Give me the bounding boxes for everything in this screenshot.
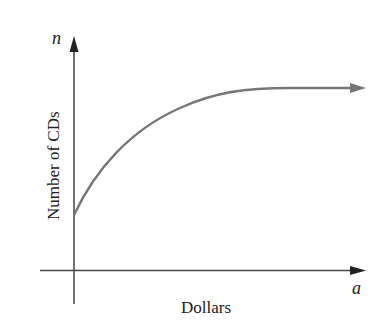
x-axis: [40, 266, 366, 275]
curve-arrow-icon: [350, 83, 366, 93]
y-axis: [70, 36, 79, 304]
x-axis-arrow-icon: [350, 266, 366, 275]
y-axis-arrow-icon: [70, 36, 79, 52]
y-axis-label: Number of CDs: [44, 111, 64, 220]
x-variable-label: a: [352, 278, 361, 299]
x-axis-label: Dollars: [181, 298, 231, 318]
curve: [74, 83, 366, 215]
y-variable-label: n: [52, 28, 61, 49]
